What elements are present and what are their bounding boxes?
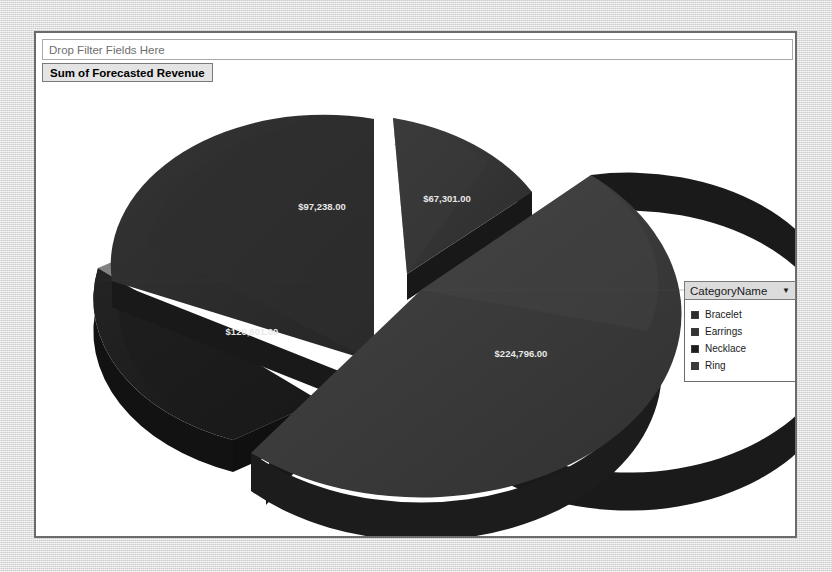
report-frame: Drop Filter Fields Here Sum of Forecaste… — [34, 31, 797, 538]
filter-dropzone-placeholder: Drop Filter Fields Here — [49, 44, 165, 56]
chart-legend: CategoryName ▼ Bracelet Earrings Necklac… — [684, 281, 796, 382]
legend-header-label: CategoryName — [690, 285, 767, 297]
legend-label-earrings: Earrings — [705, 327, 742, 337]
legend-item-ring[interactable]: Ring — [691, 357, 790, 374]
pie-chart-svg: $97,238.00 $67,301.00 $120,601.00 $224,7… — [36, 85, 795, 536]
pie-chart-plot-area: $97,238.00 $67,301.00 $120,601.00 $224,7… — [36, 85, 795, 536]
legend-item-necklace[interactable]: Necklace — [691, 340, 790, 357]
legend-item-earrings[interactable]: Earrings — [691, 323, 790, 340]
value-field-button[interactable]: Sum of Forecasted Revenue — [42, 63, 213, 82]
legend-header-categoryname[interactable]: CategoryName ▼ — [684, 281, 796, 300]
legend-label-bracelet: Bracelet — [705, 310, 742, 320]
legend-swatch-necklace — [691, 345, 699, 353]
pivot-chart-window: Drop Filter Fields Here Sum of Forecaste… — [0, 0, 832, 572]
slice-label-necklace: $120,601.00 — [226, 326, 279, 337]
legend-label-necklace: Necklace — [705, 344, 746, 354]
slice-label-earrings: $67,301.00 — [423, 193, 471, 204]
legend-items-list: Bracelet Earrings Necklace Ring — [684, 300, 796, 382]
slice-label-bracelet: $97,238.00 — [298, 201, 346, 212]
chevron-down-icon[interactable]: ▼ — [782, 287, 790, 295]
value-field-label: Sum of Forecasted Revenue — [50, 67, 205, 79]
slice-label-ring: $224,796.00 — [495, 348, 548, 359]
legend-swatch-ring — [691, 362, 699, 370]
filter-dropzone[interactable]: Drop Filter Fields Here — [42, 39, 793, 60]
legend-swatch-bracelet — [691, 311, 699, 319]
legend-label-ring: Ring — [705, 361, 726, 371]
legend-swatch-earrings — [691, 328, 699, 336]
legend-item-bracelet[interactable]: Bracelet — [691, 306, 790, 323]
